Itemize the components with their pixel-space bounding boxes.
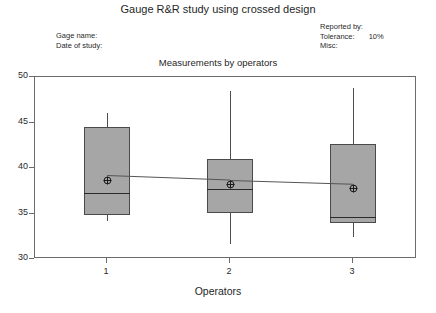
x-tick-mark: [352, 258, 353, 263]
x-tick-mark: [229, 258, 230, 263]
chart-subtitle: Measurements by operators: [0, 57, 436, 68]
median-line: [84, 193, 130, 194]
y-tick-label: 45: [4, 116, 28, 126]
tolerance-value: 10%: [369, 32, 384, 42]
median-line: [330, 217, 376, 218]
header-right-row: Misc:: [320, 41, 384, 51]
tolerance-label: Tolerance:: [320, 32, 355, 42]
gage-name-label: Gage name:: [56, 31, 97, 41]
y-tick-label: 40: [4, 161, 28, 171]
mean-marker: [349, 179, 358, 188]
header-right-row: Reported by:: [320, 22, 384, 32]
plot-canvas: [35, 77, 415, 257]
header-left-row: Gage name:: [56, 31, 116, 41]
x-tick-label: 1: [91, 266, 121, 276]
x-tick-label: 2: [214, 266, 244, 276]
mean-marker: [103, 171, 112, 180]
header-left-block: Gage name: Date of study:: [56, 31, 116, 50]
date-of-study-label: Date of study:: [56, 41, 102, 51]
header-left-row: Date of study:: [56, 41, 116, 51]
y-tick-mark: [29, 258, 34, 259]
page-title: Gauge R&R study using crossed design: [0, 3, 436, 15]
header-right-row: Tolerance: 10%: [320, 32, 384, 42]
y-tick-label: 50: [4, 70, 28, 80]
y-tick-label: 30: [4, 252, 28, 262]
mean-marker: [226, 175, 235, 184]
x-tick-label: 3: [337, 266, 367, 276]
x-axis-title: Operators: [0, 285, 436, 297]
x-tick-mark: [106, 258, 107, 263]
y-tick-label: 35: [4, 207, 28, 217]
plot-area: [34, 76, 416, 258]
header-right-block: Reported by: Tolerance: 10% Misc:: [320, 22, 384, 51]
reported-by-label: Reported by:: [320, 22, 363, 32]
misc-label: Misc:: [320, 41, 338, 51]
